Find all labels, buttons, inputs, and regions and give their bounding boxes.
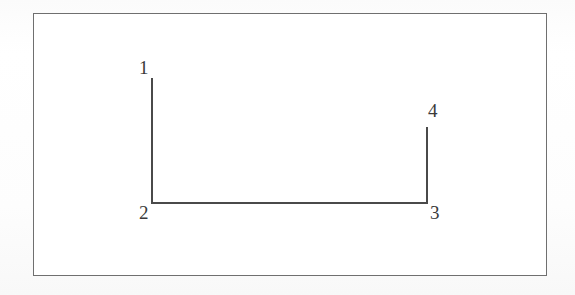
vertex-label-2: 2 (139, 203, 149, 222)
polyline-drawing (0, 0, 575, 295)
vertex-label-4: 4 (428, 101, 438, 120)
figure-page: 1 2 3 4 (0, 0, 575, 295)
vertex-label-3: 3 (430, 203, 440, 222)
vertex-polyline-path (152, 78, 427, 203)
vertex-label-1: 1 (139, 58, 149, 77)
